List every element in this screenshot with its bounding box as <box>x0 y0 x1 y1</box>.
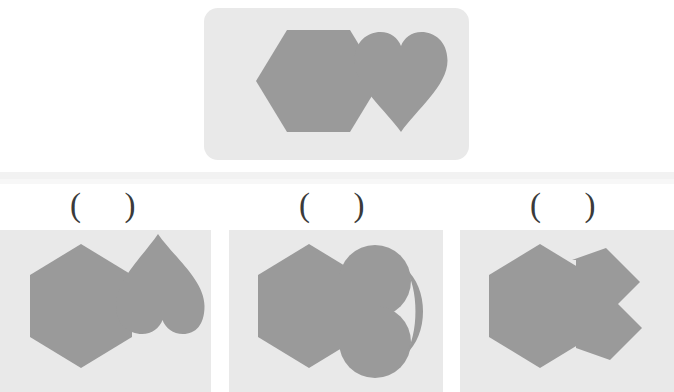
option-c-shapes <box>460 230 674 392</box>
hexagon-icon <box>489 244 591 368</box>
prompt-shapes <box>204 8 469 160</box>
option-b-shapes <box>229 230 443 392</box>
answer-marker-a[interactable]: ( ) <box>70 186 140 224</box>
heart-rotated-icon <box>116 234 205 334</box>
option-panel-a[interactable] <box>0 230 211 392</box>
background-band-upper <box>0 172 674 179</box>
answer-marker-row: ( ) ( ) ( ) <box>0 186 674 226</box>
angular-polygon-icon <box>572 248 642 360</box>
option-a-shapes <box>0 230 211 392</box>
heart-join-icon <box>339 275 379 348</box>
answer-marker-b[interactable]: ( ) <box>299 186 369 224</box>
heart-icon <box>355 32 448 132</box>
background-band-lower <box>0 179 674 184</box>
prompt-panel <box>204 8 469 160</box>
answer-marker-c[interactable]: ( ) <box>530 186 600 224</box>
option-panel-b[interactable] <box>229 230 443 392</box>
option-panel-c[interactable] <box>460 230 674 392</box>
puzzle-stage: ( ) ( ) ( ) <box>0 0 674 392</box>
